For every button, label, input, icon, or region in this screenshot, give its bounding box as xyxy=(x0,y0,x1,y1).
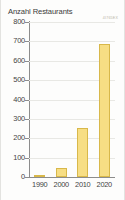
y-axis-labels: 0100200300400500600700800 xyxy=(1,0,25,200)
y-tick-label: 800 xyxy=(1,18,25,26)
y-tick-mark xyxy=(25,61,29,62)
y-tick-mark xyxy=(25,177,29,178)
y-tick-label: 600 xyxy=(1,57,25,65)
bar xyxy=(77,128,88,177)
y-tick-label: 400 xyxy=(1,96,25,104)
y-tick-label: 200 xyxy=(1,134,25,142)
y-tick-mark xyxy=(25,22,29,23)
y-tick-mark xyxy=(25,80,29,81)
x-tick-label: 2020 xyxy=(94,180,116,190)
bar xyxy=(99,44,110,177)
gridline xyxy=(29,41,115,42)
chart-figure: Anzahl Restaurants 4I765EX 0100200300400… xyxy=(0,0,125,200)
watermark-text: 4I765EX xyxy=(103,16,118,21)
y-tick-label: 100 xyxy=(1,154,25,162)
plot-area xyxy=(29,22,115,177)
bar xyxy=(34,175,45,177)
y-tick-label: 500 xyxy=(1,76,25,84)
y-tick-mark xyxy=(25,100,29,101)
y-tick-mark xyxy=(25,41,29,42)
y-tick-label: 700 xyxy=(1,37,25,45)
x-axis-labels: 1990200020102020 xyxy=(29,180,115,192)
y-tick-mark xyxy=(25,138,29,139)
x-tick-label: 2010 xyxy=(72,180,94,190)
x-tick-label: 2000 xyxy=(51,180,73,190)
y-tick-label: 300 xyxy=(1,115,25,123)
y-tick-mark xyxy=(25,119,29,120)
gridline xyxy=(29,22,115,23)
x-axis-line xyxy=(29,177,115,178)
y-tick-label: 0 xyxy=(1,173,25,181)
x-tick-label: 1990 xyxy=(29,180,51,190)
y-tick-mark xyxy=(25,158,29,159)
bar xyxy=(56,168,67,177)
